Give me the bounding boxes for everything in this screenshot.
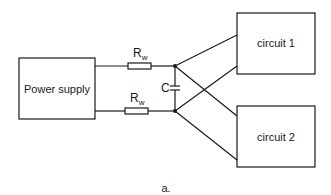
- resistor-top-subscript: w: [142, 53, 148, 62]
- resistor-top-symbol: [128, 63, 151, 69]
- wire-top-node-to-circuit2: [175, 66, 237, 116]
- resistor-bottom-symbol-text: R: [130, 91, 139, 105]
- resistor-bottom-label: Rw: [130, 91, 144, 107]
- resistor-bottom-subscript: w: [139, 98, 145, 107]
- power-supply-label: Power supply: [24, 83, 90, 95]
- resistor-top-symbol-text: R: [133, 46, 142, 60]
- resistor-bottom-symbol: [125, 108, 148, 114]
- wire-bottom-node-to-circuit2: [175, 111, 237, 160]
- circuit-1-label: circuit 1: [257, 37, 295, 49]
- capacitor-label: C: [161, 81, 170, 95]
- circuit-2-label: circuit 2: [257, 131, 295, 143]
- junction-node-top: [173, 64, 177, 68]
- junction-node-bottom: [173, 109, 177, 113]
- circuit-schematic: [0, 0, 331, 195]
- resistor-top-label: Rw: [133, 46, 147, 62]
- wire-top-node-to-circuit1: [175, 35, 237, 66]
- figure-caption: a.: [161, 182, 170, 194]
